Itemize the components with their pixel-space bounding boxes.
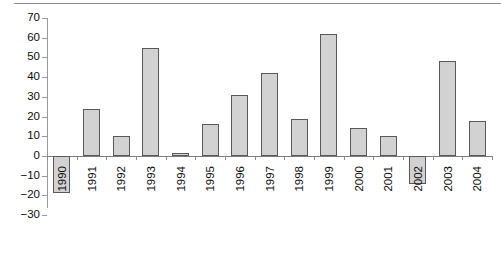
y-axis-tick-label-text: −10 xyxy=(4,170,40,181)
x-axis-tick xyxy=(195,156,196,160)
x-axis-tick xyxy=(284,156,285,160)
y-axis-tick-label: 40 xyxy=(0,71,40,82)
x-axis-tick xyxy=(106,156,107,160)
bar xyxy=(291,119,308,156)
bar xyxy=(83,109,100,156)
bar xyxy=(320,34,337,156)
x-axis-tick xyxy=(255,156,256,160)
y-axis-tick-label-text: 20 xyxy=(4,111,40,122)
bar xyxy=(380,136,397,156)
x-axis-tick xyxy=(373,156,374,160)
y-axis-tick xyxy=(42,18,47,19)
x-axis-category-label: 1994 xyxy=(175,166,187,192)
y-axis-tick-label-text: 70 xyxy=(4,12,40,23)
y-axis-tick-label-text: 50 xyxy=(4,51,40,62)
bar xyxy=(142,48,159,156)
bar xyxy=(439,61,456,156)
bar xyxy=(202,124,219,156)
x-axis-category-label: 2002 xyxy=(412,166,424,192)
x-axis-category-label: 1999 xyxy=(323,166,335,192)
bar xyxy=(261,73,278,156)
y-axis-tick-label: 60 xyxy=(0,32,40,43)
y-axis-tick-label: 50 xyxy=(0,51,40,62)
y-axis-line xyxy=(47,18,48,208)
x-axis-category-label: 2004 xyxy=(471,166,483,192)
y-axis-tick xyxy=(42,38,47,39)
x-axis-tick xyxy=(166,156,167,160)
y-axis-tick-label-text: −30 xyxy=(4,209,40,220)
x-axis-category-label: 1993 xyxy=(145,166,157,192)
y-axis-tick xyxy=(42,176,47,177)
y-axis-tick-label-text: 60 xyxy=(4,32,40,43)
x-axis-category-label: 2003 xyxy=(442,166,454,192)
y-axis-tick xyxy=(42,57,47,58)
bar xyxy=(469,121,486,156)
y-axis-tick-label-text: 30 xyxy=(4,91,40,102)
y-axis-tick xyxy=(42,117,47,118)
x-axis-category-label: 1990 xyxy=(56,166,68,192)
y-axis-tick-label: 10 xyxy=(0,130,40,141)
figure: 706050403020100−10−20−30 199019911992199… xyxy=(0,0,501,259)
x-axis-tick xyxy=(403,156,404,160)
bar-chart-plot-area: 706050403020100−10−20−30 199019911992199… xyxy=(0,0,501,259)
x-axis-tick xyxy=(225,156,226,160)
x-axis-category-label: 1996 xyxy=(234,166,246,192)
y-axis-tick xyxy=(42,97,47,98)
y-axis-tick-label: −30 xyxy=(0,209,40,220)
y-axis-tick-label: 20 xyxy=(0,111,40,122)
bar xyxy=(113,136,130,156)
x-axis-category-label: 1997 xyxy=(264,166,276,192)
x-axis-category-label: 1995 xyxy=(204,166,216,192)
x-axis-tick xyxy=(492,156,493,160)
bar xyxy=(231,95,248,156)
x-axis-tick xyxy=(314,156,315,160)
bar xyxy=(172,153,189,156)
y-axis-tick xyxy=(42,195,47,196)
y-axis-tick-label: 70 xyxy=(0,12,40,23)
bar xyxy=(350,128,367,156)
x-axis-tick xyxy=(136,156,137,160)
x-axis-category-label: 1992 xyxy=(115,166,127,192)
y-axis-tick-label-text: 40 xyxy=(4,71,40,82)
x-axis-tick xyxy=(462,156,463,160)
x-axis-tick xyxy=(47,156,48,160)
x-axis-category-label: 2001 xyxy=(382,166,394,192)
y-axis-tick-label: 0 xyxy=(0,150,40,161)
y-axis-tick xyxy=(42,136,47,137)
y-axis-tick-label-text: 10 xyxy=(4,130,40,141)
y-axis-tick-label-text: −20 xyxy=(4,189,40,200)
y-axis-tick-label: −20 xyxy=(0,189,40,200)
x-axis-tick xyxy=(77,156,78,160)
y-axis-tick xyxy=(42,215,47,216)
x-axis-category-label: 1991 xyxy=(86,166,98,192)
y-axis-tick-label: 30 xyxy=(0,91,40,102)
x-axis-category-label: 1998 xyxy=(293,166,305,192)
x-axis-tick xyxy=(433,156,434,160)
y-axis-tick xyxy=(42,77,47,78)
y-axis-tick-label: −10 xyxy=(0,170,40,181)
x-axis-category-label: 2000 xyxy=(353,166,365,192)
x-axis-tick xyxy=(344,156,345,160)
y-axis-tick-label-text: 0 xyxy=(4,150,40,161)
